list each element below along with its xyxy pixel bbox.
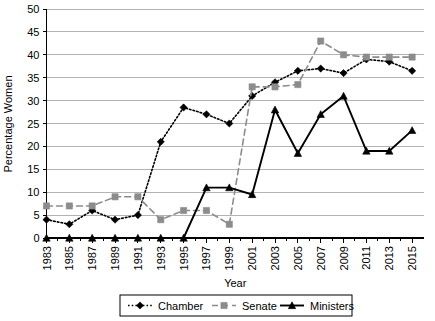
legend-marker-senate (221, 302, 227, 308)
data-point-chamber-2015 (409, 67, 416, 74)
x-tick-label: 2009 (338, 246, 350, 270)
series-chamber (43, 56, 416, 228)
x-tick-label: 2013 (383, 246, 395, 270)
data-point-senate-2011 (363, 54, 369, 60)
series-ministers (43, 92, 416, 241)
x-axis-tick-labels: 1983198519871989199119931995199719992001… (41, 246, 419, 270)
series-line-ministers (47, 96, 413, 238)
x-tick-label: 2011 (360, 246, 372, 270)
data-point-chamber-2009 (340, 70, 347, 77)
x-tick-label: 2007 (315, 246, 327, 270)
data-point-senate-1995 (181, 207, 187, 213)
x-tick-label: 1989 (109, 246, 121, 270)
line-chart: 05101520253035404550 1983198519871989199… (0, 0, 435, 321)
legend-label-ministers: Ministers (310, 300, 355, 312)
y-tick-label: 40 (27, 49, 39, 61)
x-axis-title: Year (224, 277, 247, 289)
y-tick-label: 35 (27, 72, 39, 84)
y-tick-label: 5 (33, 209, 39, 221)
x-tick-label: 1985 (63, 246, 75, 270)
x-tick-label: 2015 (406, 246, 418, 270)
series-line-chamber (47, 59, 413, 224)
data-point-senate-1983 (43, 203, 49, 209)
data-point-senate-1989 (112, 194, 118, 200)
y-tick-label: 20 (27, 140, 39, 152)
y-tick-label: 0 (33, 232, 39, 244)
chart-container: 05101520253035404550 1983198519871989199… (0, 0, 435, 321)
legend-label-senate: Senate (242, 300, 277, 312)
y-axis-tick-labels: 05101520253035404550 (27, 3, 39, 244)
x-tick-label: 2005 (292, 246, 304, 270)
data-point-senate-2005 (295, 81, 301, 87)
y-tick-label: 10 (27, 186, 39, 198)
chart-legend: ChamberSenateMinisters (120, 295, 355, 316)
x-tick-label: 2003 (269, 246, 281, 270)
x-tick-label: 1997 (200, 246, 212, 270)
data-point-senate-2009 (340, 52, 346, 58)
data-point-chamber-1997 (203, 111, 210, 118)
data-point-senate-2013 (386, 54, 392, 60)
data-point-senate-1987 (89, 203, 95, 209)
data-point-senate-2007 (318, 38, 324, 44)
y-tick-label: 25 (27, 118, 39, 130)
x-tick-label: 1991 (132, 246, 144, 270)
data-point-chamber-2005 (294, 67, 301, 74)
data-point-chamber-1991 (134, 212, 141, 219)
y-tick-label: 45 (27, 26, 39, 38)
x-tick-label: 1995 (178, 246, 190, 270)
y-tick-label: 15 (27, 163, 39, 175)
data-point-senate-2001 (249, 84, 255, 90)
data-point-senate-1997 (203, 207, 209, 213)
data-series-layer (43, 38, 416, 241)
data-point-chamber-1985 (66, 221, 73, 228)
y-tick-label: 30 (27, 95, 39, 107)
data-point-senate-1999 (226, 221, 232, 227)
y-axis-title: Percentage Women (2, 75, 14, 172)
x-tick-label: 1983 (41, 246, 53, 270)
data-point-chamber-1983 (43, 216, 50, 223)
data-point-ministers-2009 (340, 92, 347, 99)
data-point-ministers-2015 (408, 127, 415, 134)
y-tick-label: 50 (27, 3, 39, 15)
data-point-ministers-2003 (271, 106, 278, 113)
data-point-senate-1985 (66, 203, 72, 209)
data-point-senate-1993 (158, 217, 164, 223)
series-line-senate (47, 41, 413, 224)
data-point-chamber-2007 (317, 65, 324, 72)
x-tick-label: 2001 (246, 246, 258, 270)
x-tick-label: 1987 (86, 246, 98, 270)
x-tick-label: 1993 (155, 246, 167, 270)
legend-label-chamber: Chamber (158, 300, 204, 312)
data-point-chamber-1989 (111, 216, 118, 223)
data-point-senate-2003 (272, 84, 278, 90)
x-tick-label: 1999 (223, 246, 235, 270)
data-point-senate-1991 (135, 194, 141, 200)
data-point-senate-2015 (409, 54, 415, 60)
